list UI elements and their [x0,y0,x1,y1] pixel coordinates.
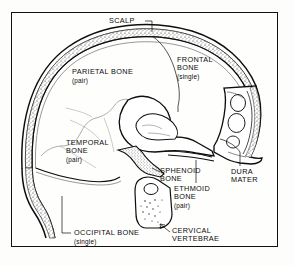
label-ethmoid-bone: ETHMOID BONE(pair) [174,185,210,210]
label-temporal-bone-qualifier: (pair) [66,156,109,164]
anatomical-figure: SCALP FRONTAL BONE(single) PARIETAL BONE… [0,0,294,266]
label-sphenoid-bone-name: SPHENOID BONE [160,166,201,183]
label-sphenoid-bone: SPHENOID BONE [160,167,201,184]
frontal-sinus-region [214,86,262,164]
label-ethmoid-bone-name: ETHMOID BONE [174,184,210,201]
label-parietal-bone-name: PARIETAL BONE [72,67,133,76]
label-dura-mater-name: DURA MATER [231,167,258,184]
label-occipital-bone: OCCIPITAL BONE(single) [74,229,139,246]
cervical-vertebra [135,177,172,228]
label-parietal-bone-qualifier: (pair) [72,77,133,86]
label-scalp: SCALP [109,17,135,26]
label-frontal-bone-name: FRONTAL BONE [177,55,213,72]
label-cervical-vertebrae: CERVICAL VERTEBRAE [172,227,219,244]
label-occipital-bone-qualifier: (single) [74,238,139,247]
label-temporal-bone: TEMPORAL BONE(pair) [66,139,109,164]
label-occipital-bone-name: OCCIPITAL BONE [74,228,139,237]
skull-diagram [0,0,294,266]
label-temporal-bone-name: TEMPORAL BONE [66,138,109,155]
label-ethmoid-bone-qualifier: (pair) [174,202,210,210]
label-frontal-bone: FRONTAL BONE(single) [177,56,213,81]
label-dura-mater: DURA MATER [231,168,258,185]
label-frontal-bone-qualifier: (single) [177,73,213,81]
label-cervical-vertebrae-name: CERVICAL VERTEBRAE [172,226,219,243]
label-parietal-bone: PARIETAL BONE(pair) [72,68,133,85]
